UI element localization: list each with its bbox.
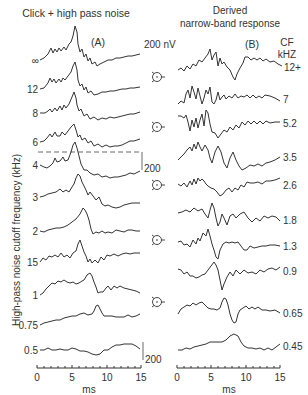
figure: Click + high pass noise Derived narrow-b…	[0, 0, 308, 395]
svg-text:0: 0	[34, 372, 40, 383]
trace-a-0-5	[40, 344, 140, 355]
x-axis-label-b: ms	[222, 384, 235, 395]
cf-label-0-9: 0.9	[283, 266, 297, 277]
cf-label-1-8: 1.8	[283, 215, 297, 226]
panel-a-traces	[40, 26, 140, 355]
trace-a-4	[40, 142, 140, 178]
svg-text:15: 15	[274, 372, 286, 383]
y-axis-label: High-pass noise cutoff frequency (kHz)	[11, 154, 22, 326]
scale-label-bottom: 200	[145, 354, 162, 365]
trace-label-0-75: 0.75	[19, 320, 39, 331]
svg-text:5: 5	[69, 372, 75, 383]
trace-label-0-5: 0.5	[24, 345, 38, 356]
cf-label-0-65: 0.65	[283, 308, 303, 319]
trace-b-1.3	[178, 229, 280, 259]
subtraction-symbols	[152, 72, 165, 307]
cf-label-2-6: 2.6	[283, 180, 297, 191]
scale-label-mid: 200	[144, 163, 161, 174]
trace-a-6	[40, 124, 140, 147]
subtract-icon-2	[152, 122, 165, 132]
panel-b-label: (B)	[245, 38, 259, 50]
trace-b-12plus	[178, 49, 282, 80]
cf-label-12: 12+	[284, 62, 301, 73]
cf-label-1-3: 1.3	[283, 241, 297, 252]
svg-text:10: 10	[101, 372, 113, 383]
svg-text:0: 0	[174, 372, 180, 383]
trace-b-0.9	[178, 262, 280, 290]
trace-a-inf	[40, 26, 140, 66]
panel-a-label: (A)	[91, 36, 105, 48]
trace-label-4: 4	[32, 160, 38, 171]
cf-label-0-45: 0.45	[283, 341, 303, 352]
trace-label-3: 3	[32, 192, 38, 203]
trace-b-0.65	[178, 298, 280, 323]
trace-b-0.45	[178, 334, 280, 350]
panel-a-title: Click + high pass noise	[22, 7, 130, 19]
scale-bars	[38, 45, 144, 360]
trace-b-7	[178, 86, 280, 104]
trace-label-1: 1	[32, 290, 38, 301]
trace-a-0-75	[40, 305, 140, 325]
right-trace-labels: 12+ 7 5.2 3.5 2.6 1.8 1.3 0.9 0.65 0.45	[283, 62, 303, 352]
panel-b-title-line2: narrow-band response	[180, 18, 280, 29]
trace-label-inf: ∞	[32, 55, 39, 66]
trace-label-6: 6	[32, 137, 38, 148]
trace-b-5.2	[178, 110, 280, 138]
scale-label-top: 200 nV	[144, 39, 176, 50]
khz-label: kHZ	[278, 49, 296, 60]
trace-b-1.8	[178, 203, 280, 226]
svg-text:5: 5	[208, 372, 214, 383]
panel-b-title-line1: Derived	[213, 5, 247, 16]
x-tick-labels-a: 0 5 10 15	[34, 372, 147, 383]
trace-label-8: 8	[32, 108, 38, 119]
trace-a-3	[40, 174, 140, 208]
trace-a-15	[40, 240, 140, 263]
trace-label-2: 2	[32, 226, 38, 237]
cf-label-7: 7	[283, 94, 289, 105]
trace-label-12: 12	[27, 84, 39, 95]
cf-label-3-5: 3.5	[283, 152, 297, 163]
panel-b-traces	[178, 49, 282, 350]
trace-a-2	[40, 208, 140, 234]
subtract-icon-5	[152, 297, 165, 307]
cf-label: CF	[280, 37, 293, 48]
subtract-icon-1	[152, 72, 165, 82]
trace-a-8	[40, 92, 140, 120]
x-tick-labels-b: 0 5 10 15	[174, 372, 286, 383]
trace-b-2.6	[178, 178, 280, 196]
svg-text:15: 15	[135, 372, 147, 383]
trace-a-1	[40, 273, 140, 295]
trace-a-12	[40, 62, 140, 95]
x-axis-b	[177, 365, 280, 368]
x-axis-a	[37, 365, 141, 368]
trace-b-3.5	[178, 142, 280, 170]
x-axis-label-a: ms	[82, 384, 95, 395]
trace-label-15: 15	[27, 257, 39, 268]
subtract-icon-4	[152, 235, 165, 245]
cf-label-5-2: 5.2	[283, 118, 297, 129]
subtract-icon-3	[152, 180, 165, 190]
svg-text:10: 10	[240, 372, 252, 383]
